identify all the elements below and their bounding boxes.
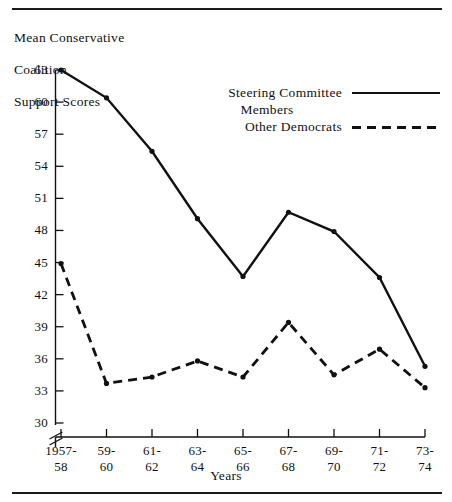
series-group: [58, 67, 427, 390]
y-tick-label-42: 42: [22, 287, 48, 303]
data-point-other-democrats-1957-58: [58, 261, 63, 266]
y-tick-label-30: 30: [22, 415, 48, 431]
data-point-other-democrats-65-66: [240, 374, 245, 379]
y-tick-label-48: 48: [22, 222, 48, 238]
data-point-other-democrats-59-60: [104, 381, 109, 386]
data-point-steering-committee-59-60: [104, 95, 109, 100]
data-point-other-democrats-61-62: [149, 374, 154, 379]
axes-group: [50, 70, 426, 447]
data-point-other-democrats-73-74: [422, 385, 427, 390]
data-point-steering-committee-71-72: [377, 275, 382, 280]
data-point-other-democrats-69-70: [331, 372, 336, 377]
y-tick-label-39: 39: [22, 319, 48, 335]
data-point-steering-committee-61-62: [149, 149, 154, 154]
data-point-other-democrats-63-64: [195, 358, 200, 363]
data-point-steering-committee-67-68: [286, 210, 291, 215]
y-tick-label-60: 60: [22, 94, 48, 110]
plot-svg: [0, 0, 452, 502]
figure-container: Mean Conservative Coalition Support Scor…: [0, 0, 452, 502]
y-tick-label-45: 45: [22, 255, 48, 271]
series-line-steering-committee: [61, 70, 425, 366]
y-tick-label-33: 33: [22, 383, 48, 399]
x-axis-title: Years: [0, 468, 452, 484]
y-tick-label-54: 54: [22, 158, 48, 174]
data-point-steering-committee-65-66: [240, 274, 245, 279]
data-point-steering-committee-73-74: [422, 364, 427, 369]
y-tick-label-51: 51: [22, 190, 48, 206]
data-point-steering-committee-1957-58: [58, 67, 63, 72]
data-point-steering-committee-63-64: [195, 216, 200, 221]
data-point-other-democrats-67-68: [286, 320, 291, 325]
series-line-other-democrats: [61, 264, 425, 388]
data-point-steering-committee-69-70: [331, 229, 336, 234]
y-tick-label-36: 36: [22, 351, 48, 367]
y-tick-label-63: 63: [22, 62, 48, 78]
y-tick-label-57: 57: [22, 126, 48, 142]
data-point-other-democrats-71-72: [377, 347, 382, 352]
